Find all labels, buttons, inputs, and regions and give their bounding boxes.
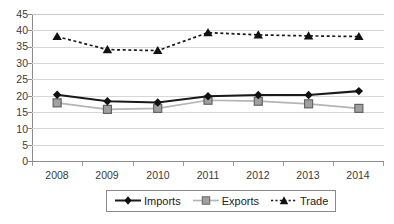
x-axis-label-2014: 2014	[335, 169, 381, 181]
chart-container: 45 40 35 30 25 20 15 10 5 0	[0, 0, 394, 224]
legend-label-exports: Exports	[222, 195, 259, 207]
diamond-line-key-icon	[114, 194, 142, 207]
data-point-imports-2013	[304, 91, 312, 99]
legend-item-exports[interactable]: Exports	[192, 194, 259, 207]
legend-item-imports[interactable]: Imports	[114, 194, 181, 207]
x-axis-label-2008: 2008	[34, 169, 80, 181]
legend-item-trade[interactable]: Trade	[270, 194, 328, 207]
data-point-trade-2009	[103, 45, 112, 53]
data-point-exports-2009	[103, 105, 111, 113]
x-axis-tick-5	[283, 162, 284, 166]
x-axis-line	[32, 161, 384, 162]
plot-area	[32, 14, 384, 161]
x-axis-tick-4	[233, 162, 234, 166]
x-axis-tick-2	[133, 162, 134, 166]
y-axis-label-25: 25	[2, 74, 28, 84]
legend-label-imports: Imports	[144, 195, 181, 207]
x-axis-label-2009: 2009	[84, 169, 130, 181]
x-axis-label-2013: 2013	[285, 169, 331, 181]
x-axis-tick-7	[383, 162, 384, 166]
series-plot	[32, 14, 384, 161]
data-point-trade-2010	[153, 46, 162, 54]
chart-legend: Imports Exports Trade	[106, 190, 336, 212]
data-point-exports-2014	[355, 104, 363, 112]
x-axis-tick-1	[82, 162, 83, 166]
y-axis-label-15: 15	[2, 107, 28, 117]
y-axis-label-0: 0	[2, 156, 28, 166]
x-axis-label-2011: 2011	[185, 169, 231, 181]
x-axis-tick-0	[32, 162, 33, 166]
y-axis-label-40: 40	[2, 25, 28, 35]
data-point-imports-2014	[355, 87, 363, 95]
y-axis-label-5: 5	[2, 140, 28, 150]
square-line-key-icon	[192, 194, 220, 207]
triangle-dashed-line-key-icon	[270, 194, 298, 207]
y-axis-label-35: 35	[2, 41, 28, 51]
data-point-trade-2008	[52, 32, 61, 40]
y-axis-label-20: 20	[2, 91, 28, 101]
x-axis-tick-6	[333, 162, 334, 166]
y-axis-label-45: 45	[2, 9, 28, 19]
data-point-exports-2013	[305, 100, 313, 108]
y-axis-label-10: 10	[2, 124, 28, 134]
y-axis-label-30: 30	[2, 58, 28, 68]
data-point-exports-2008	[53, 99, 61, 107]
data-point-imports-2009	[103, 97, 111, 105]
x-axis-label-2012: 2012	[235, 169, 281, 181]
legend-label-trade: Trade	[300, 195, 328, 207]
x-axis-tick-3	[183, 162, 184, 166]
y-axis-labels: 45 40 35 30 25 20 15 10 5 0	[0, 0, 28, 224]
x-axis-label-2010: 2010	[135, 169, 181, 181]
data-point-imports-2008	[53, 90, 61, 98]
